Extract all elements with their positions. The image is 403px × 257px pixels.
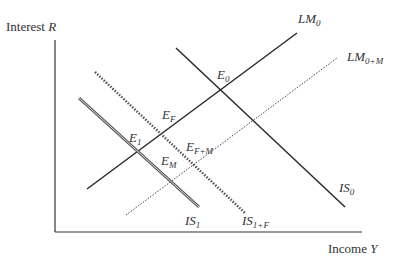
is1f-curve	[95, 72, 245, 213]
label-is1f: IS1+F	[242, 214, 269, 227]
label-e1: E1	[129, 131, 141, 144]
label-efm: EF+M	[186, 140, 213, 153]
label-is0: IS0	[339, 181, 354, 194]
label-e0: E0	[217, 68, 229, 81]
is-lm-plot	[0, 0, 403, 257]
label-ef: EF	[162, 108, 175, 121]
label-lm0: LM0	[298, 12, 321, 25]
label-is1: IS1	[185, 214, 200, 227]
label-lm0m: LM0+M	[347, 50, 383, 63]
is0-curve	[176, 48, 345, 207]
x-axis-label: Income Y	[328, 242, 377, 255]
y-axis-label: Interest R	[6, 20, 56, 33]
label-em: EM	[161, 154, 176, 167]
